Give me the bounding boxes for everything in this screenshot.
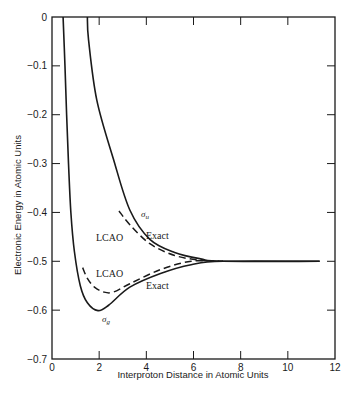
x-tick-label: 12 xyxy=(329,362,341,373)
sigma-u-label: σu xyxy=(141,209,149,221)
energy-curve-chart: 0246810120−0.1−0.2−0.3−0.4−0.5−0.6−0.7 I… xyxy=(0,0,355,398)
curves xyxy=(63,17,320,311)
exact-lower-label: Exact xyxy=(146,280,169,291)
lcao-upper-label: LCAO xyxy=(96,232,123,243)
plot-frame xyxy=(52,17,335,359)
y-tick-label: −0.6 xyxy=(27,305,47,316)
y-axis-title: Electronic Energy in Atomic Units xyxy=(12,135,23,275)
y-tick-label: −0.4 xyxy=(27,207,47,218)
x-axis-title: Interproton Distance in Atomic Units xyxy=(117,369,268,380)
sigma-u-subscript: u xyxy=(145,213,149,221)
sigma-g-label: σg xyxy=(102,314,110,326)
y-tick-label: −0.5 xyxy=(27,256,47,267)
lcao-lower-label: LCAO xyxy=(96,268,123,279)
curve--g-exact xyxy=(63,17,320,311)
y-tick-label: −0.3 xyxy=(27,158,47,169)
exact-upper-label: Exact xyxy=(146,230,169,241)
y-tick-label: −0.2 xyxy=(27,109,47,120)
axis-ticks xyxy=(52,17,335,359)
x-tick-label: 0 xyxy=(49,362,55,373)
x-tick-label: 10 xyxy=(282,362,294,373)
axis-tick-labels: 0246810120−0.1−0.2−0.3−0.4−0.5−0.6−0.7 xyxy=(27,12,341,374)
y-tick-label: −0.7 xyxy=(27,354,47,365)
x-tick-label: 2 xyxy=(96,362,102,373)
sigma-g-subscript: g xyxy=(106,318,110,326)
curve--u-exact xyxy=(87,17,319,261)
y-tick-label: −0.1 xyxy=(27,60,47,71)
y-tick-label: 0 xyxy=(41,12,47,23)
